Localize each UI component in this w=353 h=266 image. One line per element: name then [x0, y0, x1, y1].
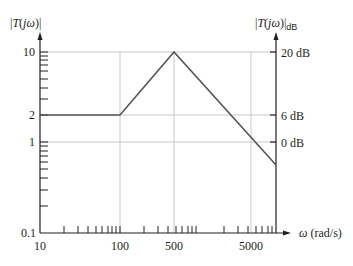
- y-axis-left-ticks: [40, 52, 48, 206]
- x-axis-arrow-icon: [283, 231, 291, 236]
- magnitude-asymptote-line: [40, 52, 276, 165]
- y-tick-label-0-1: 0.1: [21, 226, 36, 240]
- y-right-title: |T(jω)|dB: [255, 16, 297, 32]
- y-tick-label-10: 10: [23, 45, 35, 59]
- db-tick-label-20: 20 dB: [281, 46, 310, 60]
- x-tick-label-5000: 5000: [239, 239, 263, 253]
- db-tick-label-6: 6 dB: [281, 109, 304, 123]
- x-tick-label-10: 10: [34, 239, 46, 253]
- gridlines: [40, 52, 276, 233]
- x-axis-title: ω (rad/s): [299, 226, 342, 240]
- bode-magnitude-chart: |T(jω)| 10 2 1 0.1 |T(jω)|dB 20 dB 6 dB …: [0, 0, 353, 266]
- x-tick-label-500: 500: [165, 239, 183, 253]
- y-axis-right: [270, 38, 276, 233]
- y-tick-label-1: 1: [29, 135, 35, 149]
- y-tick-label-2: 2: [29, 108, 35, 122]
- y-axis-left-arrow-icon: [38, 32, 43, 40]
- y-left-title: |T(jω)|: [10, 16, 41, 30]
- y-axis-right-arrow-icon: [274, 32, 279, 40]
- x-tick-label-100: 100: [111, 239, 129, 253]
- x-axis-ticks: [64, 226, 272, 233]
- db-tick-label-0: 0 dB: [281, 136, 304, 150]
